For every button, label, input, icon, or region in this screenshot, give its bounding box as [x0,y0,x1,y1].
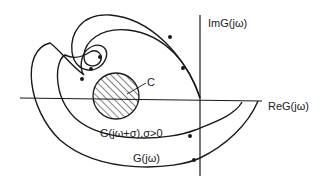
critical-region [90,70,142,122]
region-label: C [147,77,155,88]
curve-label-original: G(jω) [133,153,160,164]
diagram-svg [0,0,325,185]
arrow-marker [80,77,84,81]
arrow-marker [89,67,93,71]
arrow-marker [181,66,185,70]
arrow-marker [98,55,102,59]
curve-label-shifted: G(jω+σ),σ>0 [100,128,163,139]
real-axis [20,98,262,101]
arrow-marker [168,35,172,39]
nyquist-diagram: ImG(jω) ReG(jω) C G(jω+σ),σ>0 G(jω) [0,0,325,185]
curve-g-jw [31,15,258,167]
real-axis-label: ReG(jω) [268,101,309,112]
arrow-marker [188,134,192,138]
arrow-marker [192,158,196,162]
imaginary-axis-label: ImG(jω) [208,18,247,29]
